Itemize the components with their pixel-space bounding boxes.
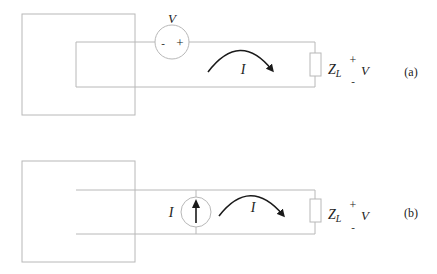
load-impedance-a xyxy=(310,53,321,76)
load-plus-a: + xyxy=(350,53,357,67)
wire-bottom-a xyxy=(76,76,315,87)
source-label-a: V xyxy=(168,11,178,26)
load-voltage-b: V xyxy=(361,208,371,223)
wire-top-right-a xyxy=(189,42,315,53)
source-minus-a: - xyxy=(161,37,165,49)
panel-a: V - + I ZL + - V (a) xyxy=(22,11,418,115)
current-label-a: I xyxy=(240,62,247,77)
voltage-source-a xyxy=(155,25,189,59)
network-box-b xyxy=(22,161,135,262)
caption-b: (b) xyxy=(404,206,418,220)
load-label-b: ZL xyxy=(328,207,342,224)
source-label-b: I xyxy=(168,205,175,220)
circuit-diagram: V - + I ZL + - V (a) I I ZL + - V (b) xyxy=(0,0,437,274)
load-impedance-b xyxy=(310,199,321,222)
load-plus-b: + xyxy=(350,198,357,212)
source-plus-a: + xyxy=(176,35,183,50)
load-minus-b: - xyxy=(351,221,355,233)
caption-a: (a) xyxy=(404,65,417,79)
load-voltage-a: V xyxy=(361,63,371,78)
load-minus-a: - xyxy=(351,75,355,87)
load-label-a: ZL xyxy=(328,62,342,79)
wire-top-a xyxy=(76,42,155,87)
panel-b: I I ZL + - V (b) xyxy=(22,161,418,262)
current-label-b: I xyxy=(250,200,257,215)
network-box-a xyxy=(22,14,135,115)
